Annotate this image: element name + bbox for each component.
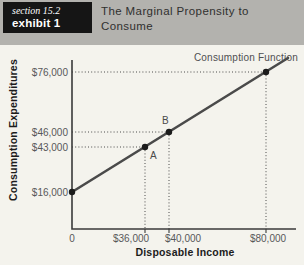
point-b bbox=[166, 129, 172, 135]
point-a-label: A bbox=[150, 150, 157, 161]
x-axis-labels: 0 $36,000 $40,000 $80,000 bbox=[69, 233, 286, 244]
x-label-0: 0 bbox=[69, 233, 75, 244]
x-axis-title: Disposable Income bbox=[135, 246, 234, 258]
x-label-40000: $40,000 bbox=[165, 233, 202, 244]
y-label-76000: $76,000 bbox=[32, 67, 69, 78]
y-label-46000: $46,000 bbox=[32, 127, 69, 138]
exhibit-header: section 15.2 exhibit 1 The Marginal Prop… bbox=[0, 0, 304, 45]
exhibit-figure: section 15.2 exhibit 1 The Marginal Prop… bbox=[0, 0, 304, 265]
consumption-function-chart: A B Consumption Function $76,000 $46,000… bbox=[0, 45, 304, 265]
y-axis-labels: $76,000 $46,000 $43,000 $16,000 bbox=[32, 67, 69, 198]
consumption-function-line bbox=[72, 58, 288, 192]
dotted-guide-lines bbox=[72, 72, 266, 229]
point-a bbox=[142, 144, 148, 150]
exhibit-badge: section 15.2 exhibit 1 bbox=[3, 2, 92, 33]
point-16000 bbox=[69, 189, 75, 195]
y-axis-title: Consumption Expenditures bbox=[7, 59, 19, 201]
y-label-16000: $16,000 bbox=[32, 187, 69, 198]
y-label-43000: $43,000 bbox=[32, 142, 69, 153]
axes bbox=[72, 60, 296, 229]
section-label: section 15.2 bbox=[12, 5, 92, 17]
x-label-36000: $36,000 bbox=[113, 233, 150, 244]
curve-label: Consumption Function bbox=[194, 52, 298, 63]
exhibit-number-label: exhibit 1 bbox=[12, 17, 92, 30]
exhibit-title: The Marginal Propensity to Consume bbox=[101, 4, 297, 34]
point-80000 bbox=[263, 69, 269, 75]
x-label-80000: $80,000 bbox=[250, 233, 287, 244]
point-b-label: B bbox=[162, 115, 169, 126]
